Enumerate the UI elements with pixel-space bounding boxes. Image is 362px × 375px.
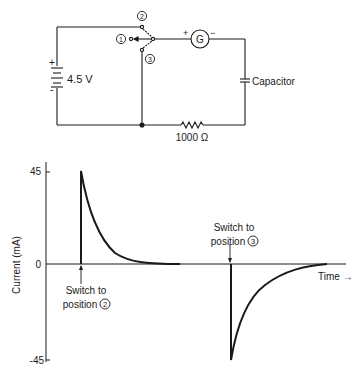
position-3-circle-marker: 3	[248, 236, 258, 246]
annotation-switch3-line2: position	[211, 236, 245, 247]
capacitor-icon	[240, 79, 250, 82]
switch-icon	[129, 25, 154, 51]
switch-position-2-marker: 2	[137, 11, 146, 20]
y-tick-label-0: 0	[35, 259, 41, 270]
x-axis-label: Time →	[318, 271, 353, 282]
resistor-label: 1000 Ω	[176, 132, 209, 143]
y-tick-label-neg45: -45	[30, 355, 45, 366]
galvanometer-plus-label: +	[183, 28, 188, 38]
svg-text:3: 3	[251, 237, 255, 246]
battery-plus-label: +	[49, 57, 55, 68]
svg-text:2: 2	[103, 300, 107, 309]
junction-dot	[140, 123, 144, 127]
battery-voltage-label: 4.5 V	[67, 73, 93, 85]
galvanometer-minus-label: −	[210, 28, 215, 38]
switch-position-1-marker: 1	[116, 34, 125, 43]
figure: + - 4.5 V 2 1 3 + G − Capacitor 1000 Ω 4…	[0, 0, 362, 375]
annotation-switch2-line1: Switch to	[66, 285, 107, 296]
y-tick-label-45: 45	[30, 166, 42, 177]
y-axis-label: Current (mA)	[11, 236, 22, 294]
svg-text:3: 3	[148, 56, 152, 63]
battery-minus-label: -	[50, 84, 53, 95]
svg-text:2: 2	[140, 13, 144, 20]
capacitor-label: Capacitor	[252, 76, 295, 87]
svg-text:1: 1	[119, 36, 123, 43]
discharging-curve	[231, 264, 327, 360]
annotation-switch2-line2: position	[63, 299, 97, 310]
galvanometer-label: G	[196, 34, 204, 45]
current-graph: 45 0 -45 Current (mA) Time → Switch to p…	[11, 162, 353, 366]
charging-curve	[81, 171, 180, 264]
position-2-circle-marker: 2	[100, 299, 110, 309]
annotation-switch3-line1: Switch to	[214, 222, 255, 233]
switch-position-3-marker: 3	[145, 54, 154, 63]
arrow-up-icon	[79, 265, 83, 284]
resistor-icon	[181, 122, 203, 128]
